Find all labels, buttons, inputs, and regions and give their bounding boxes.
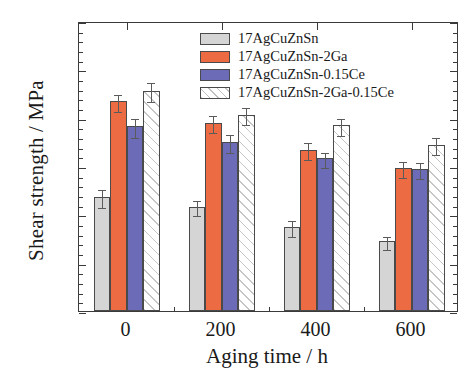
y-axis-minor-tick <box>79 245 83 246</box>
error-bar-cap <box>209 133 217 134</box>
y-axis-tick <box>450 313 457 314</box>
error-bar <box>341 119 342 136</box>
y-axis-minor-tick <box>453 52 457 53</box>
error-bar <box>436 138 437 155</box>
legend-item: 17AgCuZnSn <box>200 30 394 47</box>
y-axis-minor-tick <box>79 294 83 295</box>
error-bar-cap <box>321 168 329 169</box>
y-axis-minor-tick <box>453 187 457 188</box>
x-tick-label: 400 <box>276 318 356 341</box>
y-axis-minor-tick <box>453 197 457 198</box>
error-bar-cap <box>432 138 440 139</box>
y-axis-minor-tick <box>79 110 83 111</box>
error-bar <box>246 108 247 125</box>
bar <box>284 227 301 311</box>
bar <box>189 207 206 311</box>
y-axis-tick <box>79 313 86 314</box>
y-axis-minor-tick <box>79 100 83 101</box>
x-axis-title: Aging time / h <box>76 344 458 369</box>
y-axis-minor-tick <box>79 274 83 275</box>
error-bar-cap <box>131 138 139 139</box>
y-axis-minor-tick <box>79 178 83 179</box>
y-axis-minor-tick <box>453 81 457 82</box>
y-axis-minor-tick <box>79 158 83 159</box>
y-axis-minor-tick <box>453 129 457 130</box>
error-bar-cap <box>337 119 345 120</box>
error-bar-cap <box>131 119 139 120</box>
bar <box>428 145 445 311</box>
error-bar <box>213 116 214 133</box>
error-bar-cap <box>399 162 407 163</box>
y-axis-tick <box>450 120 457 121</box>
legend-label: 17AgCuZnSn-2Ga-0.15Ce <box>238 84 394 101</box>
error-bar-cap <box>304 160 312 161</box>
y-axis-minor-tick <box>453 274 457 275</box>
error-bar-cap <box>226 153 234 154</box>
error-bar-cap <box>416 163 424 164</box>
error-bar <box>118 95 119 112</box>
error-bar <box>420 163 421 178</box>
y-axis-minor-tick <box>453 178 457 179</box>
error-bar-cap <box>321 153 329 154</box>
y-axis-tick <box>450 23 457 24</box>
y-axis-minor-tick <box>453 294 457 295</box>
error-bar-cap <box>147 102 155 103</box>
y-axis-minor-tick <box>453 236 457 237</box>
y-axis-minor-tick <box>79 149 83 150</box>
y-axis-minor-tick <box>79 52 83 53</box>
y-axis-minor-tick <box>79 33 83 34</box>
error-bar <box>230 135 231 152</box>
x-axis-tick-top <box>127 23 128 30</box>
x-axis-minor-tick <box>269 307 270 311</box>
y-axis-tick <box>450 265 457 266</box>
y-axis-minor-tick <box>79 284 83 285</box>
x-axis-minor-tick <box>364 307 365 311</box>
x-tick-label: 0 <box>86 318 166 341</box>
bar <box>143 91 160 311</box>
y-axis-title: Shear strength / MPa <box>24 31 49 311</box>
y-axis-minor-tick <box>79 187 83 188</box>
y-axis-minor-tick <box>79 255 83 256</box>
y-axis-tick <box>450 71 457 72</box>
y-axis-minor-tick <box>79 226 83 227</box>
error-bar-cap <box>193 201 201 202</box>
x-axis-tick-top <box>412 23 413 30</box>
error-bar-cap <box>288 237 296 238</box>
y-axis-minor-tick <box>453 100 457 101</box>
error-bar-cap <box>242 108 250 109</box>
error-bar-cap <box>399 178 407 179</box>
error-bar-cap <box>209 116 217 117</box>
error-bar-cap <box>98 208 106 209</box>
bar <box>238 115 255 311</box>
error-bar-cap <box>337 136 345 137</box>
y-axis-minor-tick <box>453 207 457 208</box>
error-bar-cap <box>416 179 424 180</box>
y-axis-minor-tick <box>453 91 457 92</box>
x-axis-minor-tick <box>174 307 175 311</box>
error-bar-cap <box>226 135 234 136</box>
error-bar-cap <box>383 237 391 238</box>
error-bar-cap <box>242 125 250 126</box>
legend-swatch-icon <box>200 51 230 63</box>
bar <box>412 169 429 311</box>
bar <box>205 123 222 312</box>
legend-label: 17AgCuZnSn-2Ga <box>238 48 348 65</box>
y-axis-minor-tick <box>453 62 457 63</box>
error-bar <box>387 237 388 251</box>
y-axis-minor-tick <box>79 81 83 82</box>
y-axis-minor-tick <box>453 33 457 34</box>
error-bar <box>292 221 293 236</box>
y-axis-minor-tick <box>79 197 83 198</box>
bar <box>317 158 334 311</box>
y-axis-tick <box>450 216 457 217</box>
bar <box>222 142 239 311</box>
error-bar <box>197 201 198 216</box>
error-bar <box>151 83 152 102</box>
bar <box>379 241 396 311</box>
y-axis-tick <box>79 23 86 24</box>
y-axis-minor-tick <box>453 139 457 140</box>
y-axis-minor-tick <box>79 303 83 304</box>
error-bar-cap <box>114 112 122 113</box>
y-axis-minor-tick <box>79 42 83 43</box>
bar <box>110 101 127 311</box>
